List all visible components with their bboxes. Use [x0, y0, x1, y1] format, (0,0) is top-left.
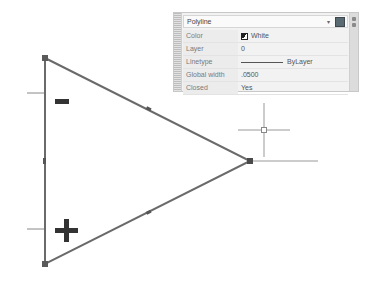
object-type-label: Polyline — [187, 18, 324, 25]
crosshair-cursor-icon — [238, 103, 290, 157]
panel-side-bar — [349, 13, 358, 91]
quick-properties-panel: Polyline ▾ Color White Layer 0 Linetype … — [173, 12, 359, 92]
color-swatch-icon — [241, 33, 248, 40]
property-row-color[interactable]: Color White — [183, 30, 348, 43]
quick-select-icon[interactable] — [335, 17, 345, 27]
property-value-closed[interactable]: Yes — [238, 82, 348, 94]
property-label: Closed — [183, 82, 238, 94]
property-value-global-width[interactable]: .0500 — [238, 69, 348, 81]
vertex-grip-top[interactable] — [42, 55, 48, 61]
properties-list: Color White Layer 0 Linetype ByLayer Glo… — [183, 30, 348, 95]
close-icon[interactable] — [352, 17, 356, 21]
property-label: Color — [183, 30, 238, 42]
panel-drag-grip[interactable] — [174, 13, 182, 91]
linetype-value: ByLayer — [287, 56, 313, 68]
property-value-layer[interactable]: 0 — [238, 43, 348, 55]
property-row-layer[interactable]: Layer 0 — [183, 43, 348, 56]
linetype-preview — [241, 62, 283, 63]
property-label: Linetype — [183, 56, 238, 68]
property-value-color[interactable]: White — [238, 30, 348, 42]
plus-sign-icon-vertical — [64, 219, 69, 242]
minus-sign-icon — [55, 99, 69, 104]
vertex-grip-right[interactable] — [247, 158, 253, 164]
object-type-dropdown[interactable]: Polyline ▾ — [183, 15, 348, 28]
chevron-down-icon[interactable]: ▾ — [324, 18, 332, 25]
vertex-grip-bottom[interactable] — [42, 261, 48, 267]
property-row-closed[interactable]: Closed Yes — [183, 82, 348, 95]
color-value: White — [251, 30, 269, 42]
property-row-linetype[interactable]: Linetype ByLayer — [183, 56, 348, 69]
property-label: Global width — [183, 69, 238, 81]
property-row-global-width[interactable]: Global width .0500 — [183, 69, 348, 82]
property-value-linetype[interactable]: ByLayer — [238, 56, 348, 68]
midpoint-grip-left[interactable] — [43, 158, 46, 164]
customize-icon[interactable] — [352, 23, 356, 27]
property-label: Layer — [183, 43, 238, 55]
